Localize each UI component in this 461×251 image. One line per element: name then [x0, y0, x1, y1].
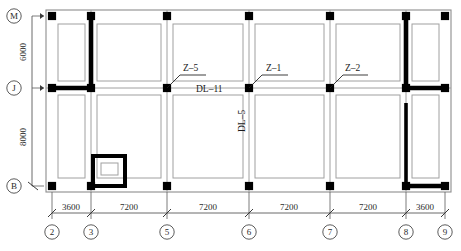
dimension-3600-left: 3600: [62, 202, 81, 212]
column-B2: [48, 182, 56, 190]
column-B3: [87, 182, 95, 190]
grid-bubble-6: 6: [242, 225, 256, 239]
grid-label-B: B: [11, 181, 17, 191]
grid-bubble-B: B: [7, 179, 21, 193]
grid-label-3: 3: [89, 227, 94, 237]
structural-floor-plan: Z–5 Z–1 Z–2 DL–11 DL–5 6000 8000 MJB: [0, 0, 461, 251]
column-M8: [402, 12, 410, 20]
column-M6: [245, 12, 253, 20]
grid-label-2: 2: [50, 227, 55, 237]
dimension-7200-a: 7200: [120, 202, 139, 212]
column-J3: [87, 84, 95, 92]
vertical-dimension-8000: 8000: [18, 128, 28, 147]
dimension-7200-b: 7200: [199, 202, 218, 212]
dimension-3600-right: 3600: [416, 202, 435, 212]
dimension-7200-c: 7200: [280, 202, 299, 212]
column-J9: [441, 84, 449, 92]
grid-bubble-9: 9: [438, 225, 452, 239]
column-B6: [245, 182, 253, 190]
column-B7: [326, 182, 334, 190]
grid-label-7: 7: [328, 227, 333, 237]
column-J2: [48, 84, 56, 92]
column-M3: [87, 12, 95, 20]
vertical-dimension-6000: 6000: [18, 43, 28, 62]
dimension-7200-d: 7200: [359, 202, 378, 212]
grid-bubble-7: 7: [323, 225, 337, 239]
column-M7: [326, 12, 334, 20]
column-B9: [441, 182, 449, 190]
label-z5: Z–5: [183, 63, 199, 73]
grid-label-8: 8: [404, 227, 409, 237]
column-B5: [163, 182, 171, 190]
grid-bubble-5: 5: [160, 225, 174, 239]
label-z2: Z–2: [345, 63, 361, 73]
label-dl11: DL–11: [196, 84, 223, 94]
column-M9: [441, 12, 449, 20]
grid-bubble-J: J: [7, 81, 21, 95]
grid-label-M: M: [10, 11, 18, 21]
column-M5: [163, 12, 171, 20]
grid-label-6: 6: [247, 227, 252, 237]
grid-bubble-3: 3: [84, 225, 98, 239]
grid-bubble-2: 2: [45, 225, 59, 239]
grid-label-5: 5: [165, 227, 170, 237]
label-dl5: DL–5: [237, 110, 247, 132]
column-M2: [48, 12, 56, 20]
column-B8: [402, 182, 410, 190]
grid-bubble-8: 8: [399, 225, 413, 239]
grid-label-J: J: [12, 83, 16, 93]
grid-label-9: 9: [443, 227, 448, 237]
grid-bubble-M: M: [7, 9, 21, 23]
column-J8: [402, 84, 410, 92]
label-z1: Z–1: [266, 63, 282, 73]
